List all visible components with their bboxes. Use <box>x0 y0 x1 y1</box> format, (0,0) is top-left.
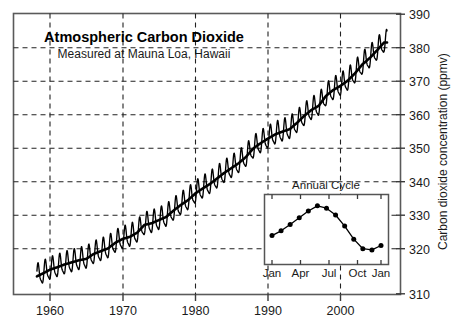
inset-label-apr: Apr <box>292 267 310 279</box>
inset-point <box>369 247 374 252</box>
inset-point <box>360 246 365 251</box>
inset-point <box>351 237 356 242</box>
inset-point <box>279 228 284 233</box>
inset-point <box>324 206 329 211</box>
inset-point <box>379 243 384 248</box>
x-tick-label-1960: 1960 <box>36 304 64 318</box>
y-tick-label-310: 310 <box>409 288 430 302</box>
y-axis-title: Carbon dioxide concentration (ppmv) <box>436 53 450 250</box>
y-tick-label-370: 370 <box>409 75 430 89</box>
inset-point <box>333 212 338 217</box>
y-tick-label-320: 320 <box>409 243 430 257</box>
inset-label-jul: Jul <box>322 267 337 279</box>
inset-title: Annual Cycle <box>292 179 360 191</box>
y-tick-label-330: 330 <box>409 209 430 223</box>
y-tick-label-390: 390 <box>409 8 430 22</box>
y-tick-label-360: 360 <box>409 109 430 123</box>
inset-label-jan-1: Jan <box>263 267 282 279</box>
inset-point <box>288 222 293 227</box>
inset-point <box>297 215 302 220</box>
y-tick-label-380: 380 <box>409 42 430 56</box>
inset-point <box>315 203 320 208</box>
inset-point <box>306 209 311 214</box>
annual-cycle-inset: Annual Cycle Jan Apr Jul Oct <box>263 179 391 279</box>
x-tick-label-1990: 1990 <box>254 304 282 318</box>
inset-label-oct: Oct <box>349 267 368 279</box>
chart-title: Atmospheric Carbon Dioxide <box>44 29 244 45</box>
inset-point <box>342 224 347 229</box>
inset-label-jan-2: Jan <box>372 267 391 279</box>
y-tick-label-350: 350 <box>409 142 430 156</box>
chart-canvas: 390 380 370 360 350 340 330 320 310 Carb… <box>0 0 454 327</box>
inset-point <box>270 233 275 238</box>
x-tick-label-2000: 2000 <box>327 304 355 318</box>
x-tick-label-1970: 1970 <box>109 304 137 318</box>
co2-chart-figure: 390 380 370 360 350 340 330 320 310 Carb… <box>0 0 454 327</box>
y-tick-label-340: 340 <box>409 176 430 190</box>
x-tick-label-1980: 1980 <box>182 304 210 318</box>
chart-subtitle: Measured at Mauna Loa, Hawaii <box>58 47 231 61</box>
